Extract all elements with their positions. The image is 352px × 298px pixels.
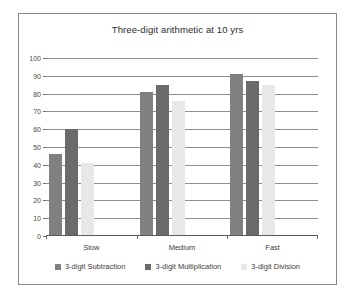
legend-swatch-icon [145, 264, 151, 270]
x-axis-tick-mark [137, 236, 138, 239]
x-axis-baseline [46, 235, 318, 236]
x-axis-tick-mark [46, 236, 47, 239]
y-axis-tick-label: 90 [33, 72, 41, 79]
legend-item[interactable]: 3-digit Subtraction [55, 262, 125, 271]
y-axis-tick-label: 80 [33, 90, 41, 97]
y-axis-tick-label: 100 [29, 55, 41, 62]
bar[interactable] [65, 129, 78, 236]
legend-item[interactable]: 3-digit Division [241, 262, 300, 271]
chart-title: Three-digit arithmetic at 10 yrs [19, 24, 336, 35]
x-axis-category-label: Medium [169, 243, 196, 252]
chart-legend: 3-digit Subtraction3-digit Multiplicatio… [19, 262, 336, 271]
y-axis-tick-label: 0 [37, 233, 41, 240]
legend-label: 3-digit Division [251, 262, 300, 271]
bar[interactable] [140, 92, 153, 236]
legend-label: 3-digit Subtraction [65, 262, 125, 271]
y-axis-tick-label: 20 [33, 197, 41, 204]
bar[interactable] [246, 81, 259, 236]
y-axis-tick-label: 50 [33, 144, 41, 151]
bar[interactable] [49, 154, 62, 236]
bar-group: Medium [137, 58, 228, 236]
legend-label: 3-digit Multiplication [155, 262, 221, 271]
x-axis-category-label: Fast [265, 243, 280, 252]
legend-swatch-icon [241, 264, 247, 270]
bar[interactable] [172, 101, 185, 236]
bar[interactable] [81, 163, 94, 236]
y-axis-tick-label: 40 [33, 161, 41, 168]
chart-frame: Three-digit arithmetic at 10 yrs 0102030… [18, 13, 337, 285]
legend-item[interactable]: 3-digit Multiplication [145, 262, 221, 271]
y-axis-tick-label: 10 [33, 215, 41, 222]
y-axis-tick-label: 30 [33, 179, 41, 186]
bar-group: Slow [46, 58, 137, 236]
bar[interactable] [262, 85, 275, 236]
bar[interactable] [230, 74, 243, 236]
x-axis-tick-mark [317, 236, 318, 239]
bars-layer: SlowMediumFast [46, 58, 318, 236]
plot-area: 0102030405060708090100 SlowMediumFast [46, 58, 318, 236]
bar[interactable] [156, 85, 169, 236]
y-axis-tick-label: 70 [33, 108, 41, 115]
x-axis-tick-mark [227, 236, 228, 239]
x-axis-category-label: Slow [83, 243, 99, 252]
legend-swatch-icon [55, 264, 61, 270]
bar-group: Fast [227, 58, 318, 236]
y-axis-tick-label: 60 [33, 126, 41, 133]
